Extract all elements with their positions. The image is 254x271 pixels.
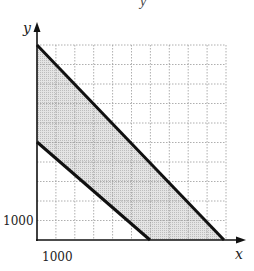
x-tick-label: 1000 bbox=[42, 250, 73, 264]
x-axis-label: x bbox=[235, 246, 243, 262]
y-axis-label: y bbox=[22, 20, 32, 36]
feasible-region-diagram: y x 1000 1000 bbox=[0, 0, 254, 271]
y-tick-label: 1000 bbox=[3, 214, 34, 228]
x-axis-arrow-icon bbox=[236, 237, 246, 244]
y-axis-arrow-icon bbox=[34, 22, 41, 32]
